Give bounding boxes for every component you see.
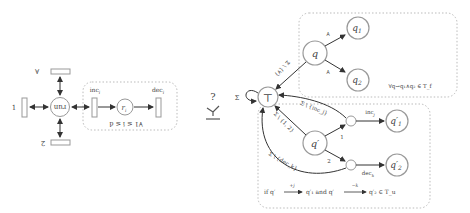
edge-q-q1-label: ∀ — [326, 31, 330, 37]
top-state-label: ⊤ — [263, 92, 273, 105]
run-place-label: run — [53, 103, 66, 111]
mid-state-1 — [346, 116, 356, 126]
cond-arrow1-label: +j — [289, 183, 295, 188]
reduction-symbol: ? — [206, 91, 220, 119]
bottom-transition-label: 2 — [41, 139, 45, 147]
automaton: ⊤ Σ q q1 q2 ∀ ∀ Σ \ {∀} ∀q→q₁∧q₂ ∈ T_f q… — [235, 13, 457, 208]
top-transition — [51, 69, 70, 74]
mid-state-2 — [346, 160, 356, 170]
cond-arrow2-label: −k — [352, 183, 359, 188]
left-transition-label: 1 — [12, 104, 16, 112]
top-transition-label: ∀ — [35, 68, 40, 76]
edge-mid1-top-label: Σ \ {inc_j} — [299, 100, 329, 117]
cond-mid: q′₁ and q′ — [306, 188, 335, 196]
cond-prefix: if q′ — [264, 188, 276, 196]
state-qp-label: q′ — [311, 138, 320, 149]
group-condition: ∀1 ≤ i ≤ d — [109, 120, 142, 128]
lambda-glyph — [207, 106, 219, 116]
dec-transition — [156, 98, 161, 117]
inc-transition — [92, 98, 97, 117]
state-q-label: q — [312, 48, 318, 59]
edge-mid1-q1p-label: incj — [365, 109, 375, 117]
upper-condition: ∀q→q₁∧q₂ ∈ T_f — [389, 83, 433, 90]
edge-q-q2-label: ∀ — [326, 69, 330, 75]
self-loop — [246, 90, 258, 101]
left-transition — [22, 98, 27, 117]
petri-net: run ∀ 1 2 inci ri deci ∀1 ≤ i ≤ d — [12, 68, 177, 147]
question-mark: ? — [210, 91, 215, 102]
edge-qp-mid2-label: 2 — [327, 158, 331, 164]
edge-qp-mid1-label: 1 — [340, 134, 344, 140]
self-loop-label: Σ — [235, 94, 240, 102]
dec-label: deci — [152, 86, 165, 95]
edge-mid2-top-label: Σ \ {dec_k} — [267, 150, 298, 172]
edge-mid2-q2p-label: deck — [362, 170, 375, 178]
inc-label: inci — [90, 86, 101, 95]
diagram-canvas: run ∀ 1 2 inci ri deci ∀1 ≤ i ≤ d ? — [0, 0, 470, 213]
bottom-transition — [51, 140, 70, 145]
edge-q-top-label: Σ \ {∀} — [274, 59, 292, 78]
cond-end: q′₂ ∈ T_u — [369, 188, 396, 196]
lower-condition: if q′ +j q′₁ and q′ −k q′₂ ∈ T_u — [264, 183, 396, 196]
